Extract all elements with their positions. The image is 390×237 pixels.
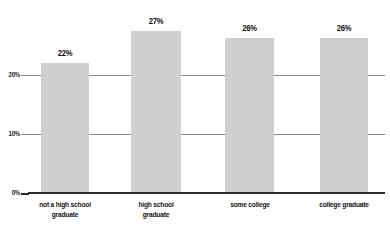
- value-label-high-school-graduate: 27%: [135, 16, 178, 26]
- y-tick-label-0: 0%: [0, 189, 20, 197]
- bar-not-a-high-school-graduate: [41, 63, 89, 193]
- category-label-line1: not a high school: [39, 200, 91, 209]
- bar-college-graduate: [320, 38, 368, 193]
- value-label-not-a-high-school-graduate: 22%: [45, 48, 86, 58]
- y-tick-label-10: 10%: [0, 130, 20, 138]
- category-label-line1: some college: [230, 200, 270, 209]
- category-label-college-graduate: college graduate: [305, 200, 382, 210]
- category-label-line2: graduate: [24, 210, 107, 220]
- value-label-some-college: 26%: [229, 23, 271, 33]
- bar-high-school-graduate: [131, 31, 181, 193]
- category-label-not-a-high-school-graduate: not a high school graduate: [24, 200, 107, 220]
- category-label-some-college: some college: [212, 200, 288, 210]
- y-tick-label-10-text: 10%: [3, 130, 20, 138]
- category-label-line2: graduate: [118, 210, 194, 220]
- category-label-line1: college graduate: [319, 200, 369, 209]
- category-label-high-school-graduate: high school graduate: [118, 200, 194, 220]
- x-axis-baseline: [28, 192, 385, 194]
- category-label-line1: high school: [138, 200, 173, 209]
- bar-chart: 20% 10% 0% 22% 27% 26% 26% not a high sc…: [0, 0, 390, 237]
- y-tick-label-20-text: 20%: [3, 71, 20, 79]
- bar-some-college: [225, 38, 274, 193]
- tick-mark-10-percent: [21, 134, 29, 135]
- value-label-college-graduate: 26%: [324, 23, 365, 33]
- y-tick-label-20: 20%: [0, 71, 20, 79]
- plot-area: 20% 10% 0% 22% 27% 26% 26% not a high sc…: [0, 0, 390, 237]
- tick-mark-20-percent: [21, 75, 29, 76]
- y-tick-label-0-text: 0%: [3, 189, 20, 197]
